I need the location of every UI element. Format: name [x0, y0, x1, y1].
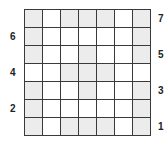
- grid-cell: [61, 10, 79, 28]
- row-label: 4: [10, 64, 16, 82]
- row-label: 6: [10, 28, 16, 46]
- grid-cell: [115, 82, 133, 100]
- grid-cell: [115, 100, 133, 118]
- grid-cell: [79, 10, 97, 28]
- grid-cell: [25, 64, 43, 82]
- grid-cell: [133, 118, 151, 136]
- grid-cell: [97, 64, 115, 82]
- pixel-grid: [24, 9, 151, 136]
- grid-cell: [25, 28, 43, 46]
- grid-cell: [25, 46, 43, 64]
- row-label: 7: [158, 10, 164, 28]
- grid-cell: [133, 28, 151, 46]
- grid-cell: [115, 28, 133, 46]
- grid-cell: [43, 46, 61, 64]
- grid-cell: [61, 82, 79, 100]
- grid-cell: [97, 46, 115, 64]
- grid-cell: [79, 28, 97, 46]
- grid-cell: [79, 46, 97, 64]
- grid-cell: [61, 118, 79, 136]
- grid-cell: [115, 118, 133, 136]
- row-label: 2: [10, 100, 16, 118]
- grid-cell: [79, 82, 97, 100]
- grid-cell: [43, 118, 61, 136]
- grid-cell: [61, 28, 79, 46]
- grid-cell: [61, 46, 79, 64]
- grid-cell: [133, 64, 151, 82]
- grid-cell: [115, 64, 133, 82]
- grid-cell: [79, 118, 97, 136]
- grid-cell: [97, 100, 115, 118]
- grid-cell: [133, 100, 151, 118]
- grid-cell: [115, 10, 133, 28]
- grid-cell: [115, 46, 133, 64]
- grid-cell: [79, 100, 97, 118]
- grid-cell: [97, 28, 115, 46]
- grid-cell: [61, 64, 79, 82]
- grid-cell: [43, 64, 61, 82]
- grid-cell: [97, 10, 115, 28]
- grid-cell: [43, 10, 61, 28]
- row-label: 1: [158, 118, 164, 136]
- grid-cell: [43, 100, 61, 118]
- grid-cell: [133, 82, 151, 100]
- grid-cell: [97, 82, 115, 100]
- grid-cell: [43, 28, 61, 46]
- row-label: 3: [158, 82, 164, 100]
- grid-cell: [25, 100, 43, 118]
- grid-cell: [25, 118, 43, 136]
- grid-cell: [97, 118, 115, 136]
- grid-cell: [61, 100, 79, 118]
- grid-cell: [25, 82, 43, 100]
- grid-cell: [43, 82, 61, 100]
- grid-cell: [133, 10, 151, 28]
- grid-cell: [133, 46, 151, 64]
- grid-cell: [25, 10, 43, 28]
- row-label: 5: [158, 46, 164, 64]
- grid-cell: [79, 64, 97, 82]
